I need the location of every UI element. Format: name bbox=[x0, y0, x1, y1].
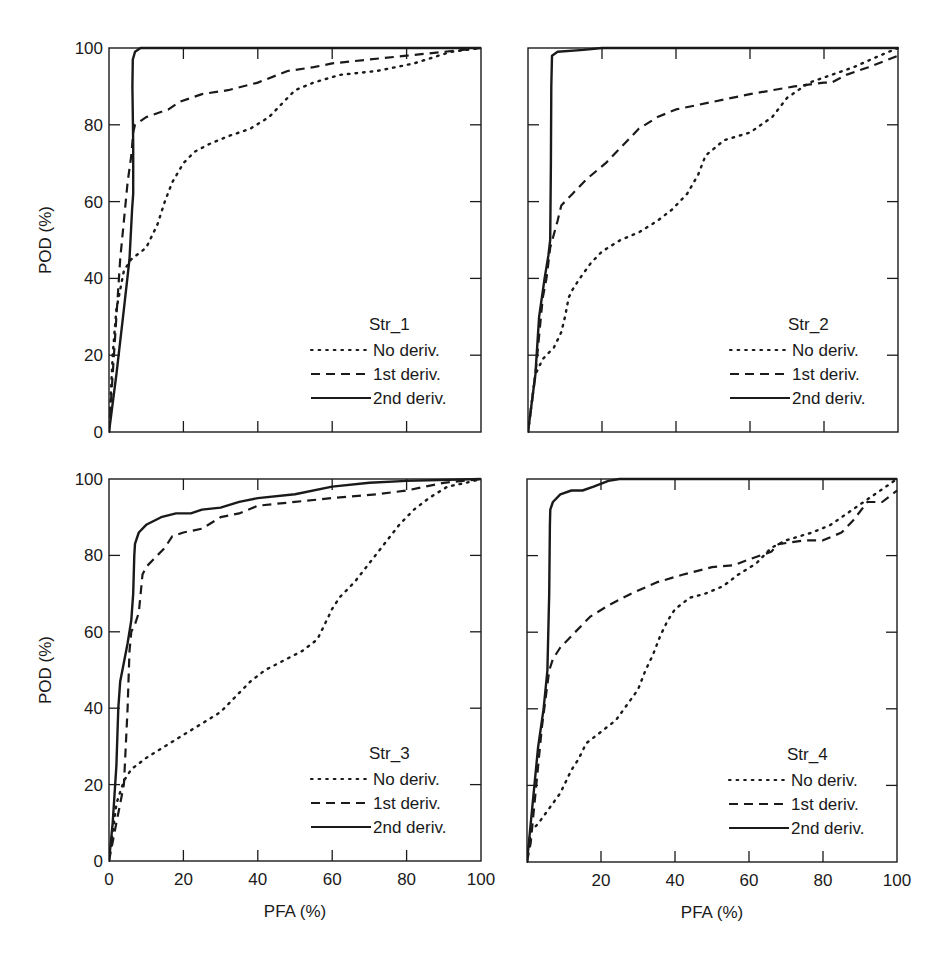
legend-label: No deriv. bbox=[791, 771, 858, 790]
x-tick-label: 80 bbox=[397, 870, 416, 889]
y-tick-label: 0 bbox=[94, 852, 103, 871]
legend-label: No deriv. bbox=[792, 341, 859, 360]
legend-label: 2nd deriv. bbox=[791, 819, 864, 838]
panel-str-4: 20406080100PFA (%)Str_4No deriv.1st deri… bbox=[527, 479, 911, 922]
y-tick-label: 20 bbox=[84, 776, 103, 795]
legend: Str_1No deriv.1st deriv.2nd deriv. bbox=[311, 315, 446, 408]
y-tick-label: 80 bbox=[84, 546, 103, 565]
legend-label: 2nd deriv. bbox=[373, 818, 446, 837]
x-tick-label: 40 bbox=[248, 870, 267, 889]
y-tick-label: 40 bbox=[84, 269, 103, 288]
y-tick-label: 100 bbox=[75, 470, 103, 489]
legend: Str_3No deriv.1st deriv.2nd deriv. bbox=[311, 744, 446, 837]
y-tick-label: 20 bbox=[84, 346, 103, 365]
legend-label: 1st deriv. bbox=[373, 365, 441, 384]
x-tick-label: 100 bbox=[883, 871, 911, 890]
legend-label: 2nd deriv. bbox=[373, 389, 446, 408]
legend-title: Str_4 bbox=[787, 745, 828, 764]
x-tick-label: 20 bbox=[592, 871, 611, 890]
legend-label: 2nd deriv. bbox=[792, 389, 865, 408]
x-tick-label: 0 bbox=[104, 870, 113, 889]
legend-label: 1st deriv. bbox=[792, 365, 860, 384]
y-tick-label: 40 bbox=[84, 699, 103, 718]
x-tick-label: 80 bbox=[814, 871, 833, 890]
legend: Str_2No deriv.1st deriv.2nd deriv. bbox=[730, 315, 865, 408]
roc-figure: 020406080100POD (%)Str_1No deriv.1st der… bbox=[0, 0, 942, 953]
x-tick-label: 60 bbox=[740, 871, 759, 890]
x-tick-label: 100 bbox=[467, 870, 495, 889]
y-tick-label: 0 bbox=[94, 423, 103, 442]
y-tick-label: 60 bbox=[84, 193, 103, 212]
y-axis-label: POD (%) bbox=[36, 636, 55, 704]
x-axis-label: PFA (%) bbox=[681, 903, 743, 922]
legend-label: No deriv. bbox=[373, 341, 440, 360]
x-tick-label: 40 bbox=[666, 871, 685, 890]
panel-str-2: Str_2No deriv.1st deriv.2nd deriv. bbox=[528, 48, 898, 432]
y-tick-label: 100 bbox=[75, 39, 103, 58]
legend-label: No deriv. bbox=[373, 770, 440, 789]
legend-label: 1st deriv. bbox=[791, 795, 859, 814]
legend-title: Str_2 bbox=[788, 315, 829, 334]
legend-title: Str_1 bbox=[369, 315, 410, 334]
y-tick-label: 80 bbox=[84, 116, 103, 135]
legend: Str_4No deriv.1st deriv.2nd deriv. bbox=[729, 745, 864, 838]
x-axis-label: PFA (%) bbox=[264, 902, 326, 921]
x-tick-label: 20 bbox=[174, 870, 193, 889]
legend-title: Str_3 bbox=[369, 744, 410, 763]
x-tick-label: 60 bbox=[323, 870, 342, 889]
panel-str-1: 020406080100POD (%)Str_1No deriv.1st der… bbox=[36, 39, 481, 442]
panel-str-3: 020406080100POD (%)020406080100PFA (%)St… bbox=[36, 470, 495, 921]
legend-label: 1st deriv. bbox=[373, 794, 441, 813]
y-tick-label: 60 bbox=[84, 623, 103, 642]
y-axis-label: POD (%) bbox=[36, 206, 55, 274]
